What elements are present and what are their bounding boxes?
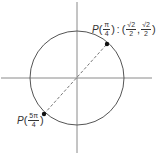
separator: :	[117, 25, 120, 35]
open-paren: (	[24, 115, 28, 126]
angle-fraction: π 4	[103, 21, 110, 38]
label-p-pi-4: P ( π 4 ) : ( √2 2 , √2 2 )	[92, 21, 156, 38]
point-pi-4-dot	[105, 42, 109, 46]
open-paren: (	[99, 24, 103, 35]
open-paren: (	[122, 24, 126, 35]
close-paren: )	[152, 24, 156, 35]
x-coord-fraction: √2 2	[126, 21, 136, 38]
angle-fraction: 5π 4	[28, 112, 39, 129]
y-coord-fraction: √2 2	[141, 21, 151, 38]
label-p-5pi-4: P ( 5π 4 )	[17, 112, 44, 129]
dashed-diameter	[44, 44, 107, 114]
label-prefix: P	[17, 116, 24, 126]
label-prefix: P	[92, 25, 99, 35]
close-paren: )	[111, 24, 115, 35]
comma: ,	[137, 24, 140, 35]
close-paren: )	[40, 115, 44, 126]
